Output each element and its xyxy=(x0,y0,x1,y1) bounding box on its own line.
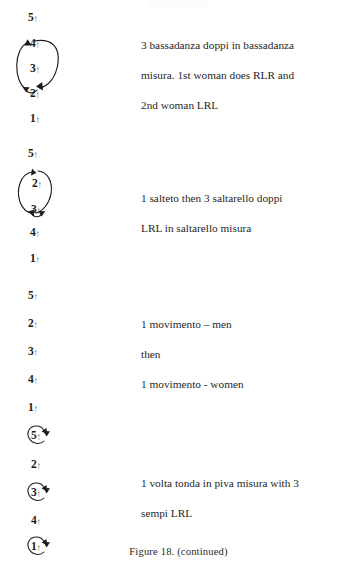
facing-arrow-icon: ↑ xyxy=(37,517,41,527)
dancer-number: 3 xyxy=(31,487,37,499)
dancer-marker: 2↑ xyxy=(32,178,152,190)
dancer-marker: 4↑ xyxy=(28,374,148,386)
description-line: LRL in saltarello misura xyxy=(141,213,353,243)
facing-arrow-icon: ↑ xyxy=(34,404,38,414)
description-line: 1 movimento - women xyxy=(141,369,353,399)
facing-arrow-icon: ↑ xyxy=(34,348,38,358)
facing-arrow-icon: ↑ xyxy=(36,90,40,100)
dancer-marker: 3↑ xyxy=(30,63,150,75)
dancer-number: 2 xyxy=(32,178,38,190)
facing-arrow-icon: ↑ xyxy=(36,115,40,125)
description-line: 1 volta tonda in piva misura with 3 xyxy=(141,468,353,498)
facing-arrow-icon: ↑ xyxy=(34,150,38,160)
dancer-marker: 5↑ xyxy=(28,290,148,302)
facing-arrow-icon: ↑ xyxy=(36,229,40,239)
dancer-number: 5 xyxy=(31,430,37,442)
description-line: 2nd woman LRL xyxy=(141,90,353,120)
facing-arrow-icon: ↑ xyxy=(36,40,40,50)
description-line: 1 salteto then 3 saltarello doppi xyxy=(141,183,353,213)
figure-page: 5↑ 4↑ 3↑ 2↑ 1↑ 3 bassadanza doppi in bas… xyxy=(0,0,357,574)
dancer-marker: 2↑ xyxy=(30,88,150,100)
description-line: 3 bassadanza doppi in bassadanza xyxy=(141,30,353,60)
facing-arrow-icon: ↑ xyxy=(37,461,41,471)
dancer-marker: 3↑ xyxy=(28,346,148,358)
dancer-number: 1 xyxy=(30,253,36,265)
dancer-number: 5 xyxy=(28,290,34,302)
dancer-marker: 3↑ xyxy=(31,487,151,499)
dancer-number: 5 xyxy=(28,148,34,160)
dancer-marker: 3↑ xyxy=(31,204,151,216)
dancer-marker: 4↑ xyxy=(31,515,151,527)
dancer-marker: 5↑ xyxy=(28,12,148,24)
dancer-marker: 1↑ xyxy=(30,113,150,125)
facing-arrow-icon: ↑ xyxy=(34,14,38,24)
dancer-marker: 4↑ xyxy=(30,227,150,239)
dancer-marker: 1↑ xyxy=(30,253,150,265)
description-block-group-1: 3 bassadanza doppi in bassadanza misura.… xyxy=(141,30,353,120)
dancer-number: 5 xyxy=(28,12,34,24)
facing-arrow-icon: ↑ xyxy=(34,292,38,302)
dancer-number: 3 xyxy=(30,63,36,75)
facing-arrow-icon: ↑ xyxy=(34,376,38,386)
description-block-group-2: 1 salteto then 3 saltarello doppi LRL in… xyxy=(141,183,353,243)
description-line: 1 movimento – men xyxy=(141,309,353,339)
dancer-number: 4 xyxy=(28,374,34,386)
dancer-marker: 2↑ xyxy=(28,318,148,330)
dancer-number: 4 xyxy=(31,515,37,527)
dancer-number: 3 xyxy=(28,346,34,358)
description-line: then xyxy=(141,339,353,369)
description-block-group-4: 1 volta tonda in piva misura with 3 semp… xyxy=(141,468,353,528)
dancer-number: 2 xyxy=(28,318,34,330)
description-block-group-3: 1 movimento – men then 1 movimento - wom… xyxy=(141,309,353,399)
figure-caption: Figure 18. (continued) xyxy=(0,546,357,557)
dancer-number: 3 xyxy=(31,204,37,216)
facing-arrow-icon: ↑ xyxy=(36,65,40,75)
facing-arrow-icon: ↑ xyxy=(36,255,40,265)
dancer-marker: 1↑ xyxy=(28,402,148,414)
dancer-number: 4 xyxy=(30,227,36,239)
dancer-number: 1 xyxy=(28,402,34,414)
dancer-number: 2 xyxy=(31,459,37,471)
dancer-marker: 4↑ xyxy=(30,38,150,50)
dancer-number: 1 xyxy=(30,113,36,125)
facing-arrow-icon: ↑ xyxy=(37,432,41,442)
description-line: sempi LRL xyxy=(141,498,353,528)
scan-artifact xyxy=(148,0,208,8)
dancer-marker: 5↑ xyxy=(31,430,151,442)
facing-arrow-icon: ↑ xyxy=(38,180,42,190)
facing-arrow-icon: ↑ xyxy=(34,320,38,330)
dancer-marker: 5↑ xyxy=(28,148,148,160)
facing-arrow-icon: ↑ xyxy=(37,489,41,499)
description-line: misura. 1st woman does RLR and xyxy=(141,60,353,90)
dancer-number: 4 xyxy=(30,38,36,50)
facing-arrow-icon: ↑ xyxy=(37,206,41,216)
dancer-number: 2 xyxy=(30,88,36,100)
dancer-marker: 2↑ xyxy=(31,459,151,471)
